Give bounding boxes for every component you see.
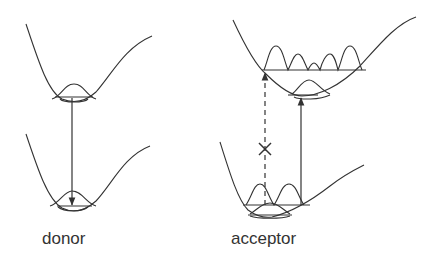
forbidden-cross-icon — [259, 143, 271, 155]
donor-label: donor — [42, 230, 85, 247]
donor-ground-lower-lobe — [58, 207, 88, 211]
acceptor-ground-potential-curve — [220, 142, 364, 217]
acceptor-excited-potential-curve — [233, 17, 416, 96]
acceptor-label: acceptor — [231, 230, 296, 247]
acceptor-excited-high-wavefunction — [264, 46, 362, 70]
donor-panel — [26, 24, 152, 211]
energy-level-diagram — [0, 0, 432, 259]
acceptor-ground-upper-wavefunction — [246, 184, 304, 205]
donor-excited-potential-curve — [26, 24, 152, 101]
acceptor-excited-ground-wavefunction — [292, 80, 330, 94]
acceptor-panel — [220, 17, 416, 218]
donor-ground-potential-curve — [26, 134, 150, 211]
